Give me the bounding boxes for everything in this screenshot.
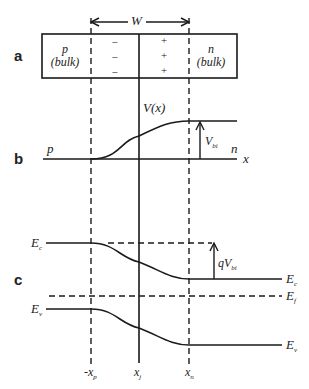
ev-left-label: Ev <box>30 301 43 318</box>
n-region-bulk: (bulk) <box>197 55 226 69</box>
panel-c-label: c <box>14 271 22 288</box>
panel-b-label: b <box>14 150 23 167</box>
p-side-label: p <box>46 141 54 156</box>
p-region-label: p <box>61 42 68 56</box>
position-labels: -xp xj xn <box>84 365 194 381</box>
width-label: W <box>131 13 143 28</box>
ec-left-label: Ec <box>30 235 43 252</box>
qvbi-label: qVbi <box>218 256 237 272</box>
valence-band <box>46 309 282 345</box>
positive-charge: + <box>160 34 167 46</box>
xp-label: -xp <box>84 365 97 381</box>
positive-charge: + <box>160 49 167 61</box>
ev-right-label: Ev <box>285 337 298 354</box>
n-side-label: n <box>231 141 238 156</box>
vbi-label: Vbi <box>205 134 218 150</box>
potential-curve <box>91 121 237 159</box>
ef-right-label: Ef <box>285 288 297 305</box>
negative-charge: − <box>111 66 118 78</box>
x-axis-label: x <box>242 151 249 166</box>
xj-label: xj <box>133 365 141 381</box>
positive-charge: + <box>160 64 167 76</box>
pn-junction-diagram: a W p (bulk) n (bulk) − − − + + + b V(x)… <box>0 0 309 389</box>
ec-right-label: Ec <box>285 271 298 288</box>
xn-label: xn <box>184 365 194 381</box>
p-region-bulk: (bulk) <box>51 55 80 69</box>
panel-c: c qVbi Ec Ev Ec Ef Ev <box>14 235 298 354</box>
negative-charge: − <box>111 51 118 63</box>
negative-charge: − <box>111 36 118 48</box>
panel-a: a W p (bulk) n (bulk) − − − + + + <box>14 13 237 78</box>
conduction-band <box>46 243 282 279</box>
potential-label: V(x) <box>143 100 165 115</box>
n-region-label: n <box>208 42 214 56</box>
panel-a-label: a <box>14 47 23 64</box>
panel-b: b V(x) p n x Vbi <box>14 100 249 167</box>
